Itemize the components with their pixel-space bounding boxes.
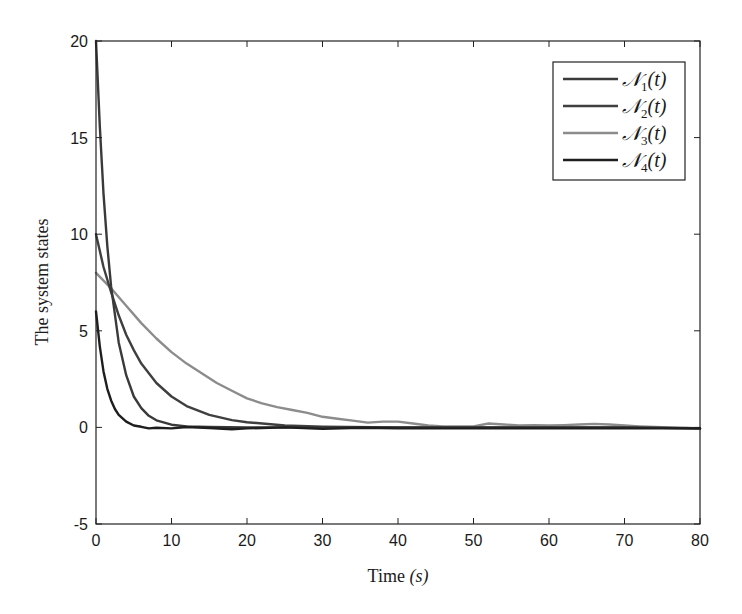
y-tick-label: 20: [70, 33, 88, 50]
legend: 𝒩1(t)𝒩2(t)𝒩3(t)𝒩4(t): [553, 62, 685, 180]
y-tick-label: -5: [74, 516, 88, 533]
y-tick-label: 5: [79, 323, 88, 340]
chart: 01020304050607080 -505101520 Time (s) Th…: [0, 0, 742, 614]
x-axis-label-unit: (s): [409, 566, 428, 587]
y-tick-label: 15: [70, 130, 88, 147]
x-tick-label: 50: [465, 532, 483, 549]
y-tick-label: 0: [79, 419, 88, 436]
x-tick-labels: 01020304050607080: [92, 532, 709, 549]
x-tick-label: 80: [691, 532, 709, 549]
x-tick-label: 20: [238, 532, 256, 549]
x-tick-label: 70: [616, 532, 634, 549]
x-tick-label: 60: [540, 532, 558, 549]
x-tick-label: 30: [314, 532, 332, 549]
x-tick-label: 0: [92, 532, 101, 549]
series-line-4: [96, 312, 700, 430]
x-tick-label: 10: [163, 532, 181, 549]
x-tick-label: 40: [389, 532, 407, 549]
x-axis-label-text: Time: [368, 566, 410, 586]
y-tick-labels: -505101520: [70, 33, 88, 533]
y-axis-label: The system states: [32, 219, 52, 346]
series-line-2: [96, 234, 700, 428]
x-axis-label: Time (s): [368, 566, 429, 587]
y-tick-label: 10: [70, 226, 88, 243]
